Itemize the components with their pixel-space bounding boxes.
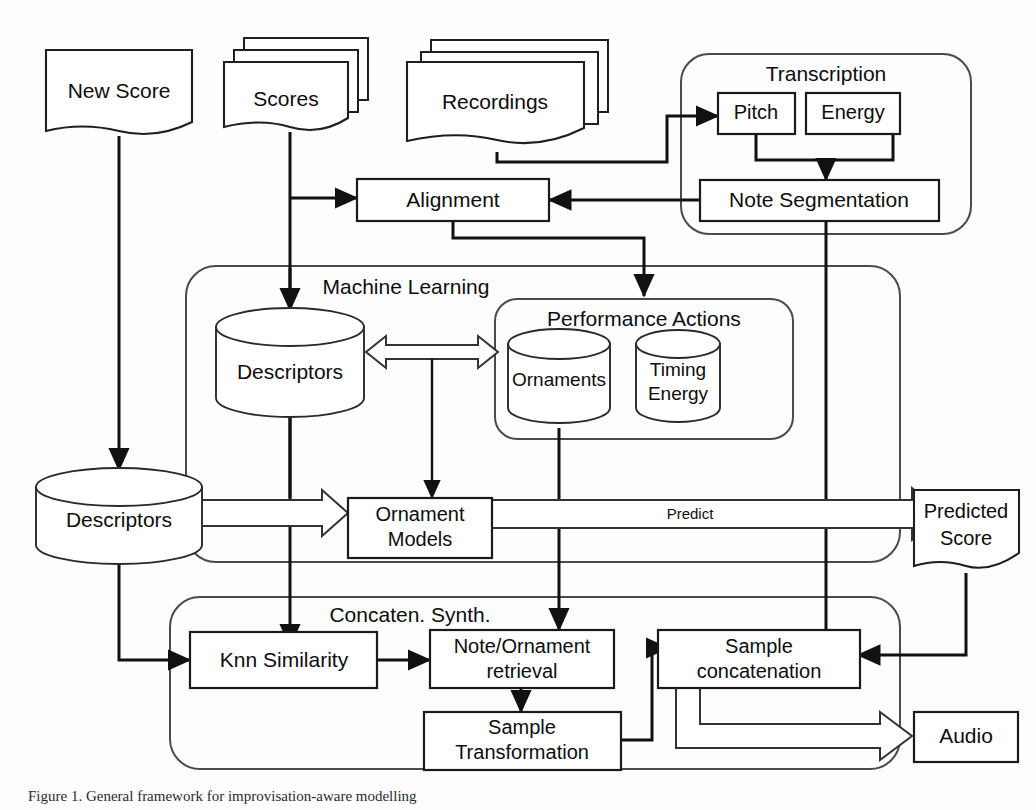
node-sample-concatenation[interactable]: Sample concatenation — [658, 630, 860, 688]
node-new-score[interactable]: New Score — [46, 50, 192, 134]
edge-note-seg-trunk-down — [826, 221, 870, 655]
edge-sample-concat-to-audio — [676, 688, 912, 760]
node-energy[interactable]: Energy — [806, 93, 900, 134]
figure-container: Transcription Machine Learning Performan… — [0, 0, 1036, 810]
node-ml-descriptors[interactable]: Descriptors — [216, 308, 364, 417]
ornament-models-label-1: Ornament — [376, 503, 465, 525]
node-alignment[interactable]: Alignment — [357, 179, 549, 221]
node-note-segmentation[interactable]: Note Segmentation — [700, 180, 939, 221]
sample-transformation-label-1: Sample — [488, 716, 556, 738]
ornaments-label: Ornaments — [512, 369, 606, 390]
node-sample-transformation[interactable]: Sample Transformation — [424, 712, 621, 770]
note-ornament-retrieval-label-1: Note/Ornament — [454, 635, 591, 657]
edge-predicted-score-to-sample-concat — [880, 573, 966, 655]
predicted-score-label-1: Predicted — [924, 500, 1009, 522]
concat-panel-title: Concaten. Synth. — [329, 603, 490, 626]
framework-diagram: Transcription Machine Learning Performan… — [0, 0, 1036, 810]
sample-concatenation-label-2: concatenation — [697, 660, 822, 682]
scores-label: Scores — [253, 87, 318, 110]
node-predicted-score[interactable]: Predicted Score — [914, 490, 1019, 568]
left-descriptors-label: Descriptors — [66, 508, 172, 531]
node-ornaments[interactable]: Ornaments — [508, 329, 610, 423]
node-scores[interactable]: Scores — [224, 38, 368, 130]
ml-descriptors-label: Descriptors — [237, 360, 343, 383]
timing-energy-label: Energy — [648, 383, 709, 404]
edge-left-descriptors-to-ornament-models — [190, 490, 348, 536]
sample-transformation-label-2: Transformation — [455, 741, 589, 763]
alignment-label: Alignment — [406, 188, 500, 211]
new-score-label: New Score — [68, 79, 171, 102]
node-left-descriptors[interactable]: Descriptors — [36, 468, 202, 564]
edge-energy-to-join — [826, 134, 893, 160]
ornament-models-label-2: Models — [388, 528, 452, 550]
performance-actions-panel-title: Performance Actions — [547, 307, 741, 330]
figure-caption: Figure 1. General framework for improvis… — [28, 788, 417, 805]
node-recordings[interactable]: Recordings — [407, 40, 608, 143]
knn-similarity-label: Knn Similarity — [220, 648, 349, 671]
note-ornament-retrieval-label-2: retrieval — [486, 660, 557, 682]
recordings-label: Recordings — [442, 90, 548, 113]
sample-concatenation-label-1: Sample — [725, 635, 793, 657]
predict-edge-label: Predict — [667, 505, 715, 522]
audio-label: Audio — [939, 724, 993, 747]
edge-pitch-to-join — [756, 134, 826, 160]
transcription-panel-title: Transcription — [766, 62, 887, 85]
predicted-score-label-2: Score — [940, 527, 992, 549]
energy-label: Energy — [821, 101, 884, 123]
node-pitch[interactable]: Pitch — [718, 93, 795, 134]
note-segmentation-label: Note Segmentation — [729, 188, 909, 211]
pitch-label: Pitch — [734, 101, 778, 123]
node-knn-similarity[interactable]: Knn Similarity — [190, 632, 377, 688]
node-ornament-models[interactable]: Ornament Models — [348, 498, 492, 558]
timing-label: Timing — [650, 359, 706, 380]
node-audio[interactable]: Audio — [914, 712, 1018, 762]
machine-learning-panel-title: Machine Learning — [323, 275, 490, 298]
node-note-ornament-retrieval[interactable]: Note/Ornament retrieval — [430, 630, 614, 688]
node-timing-energy[interactable]: Timing Energy — [636, 330, 720, 422]
